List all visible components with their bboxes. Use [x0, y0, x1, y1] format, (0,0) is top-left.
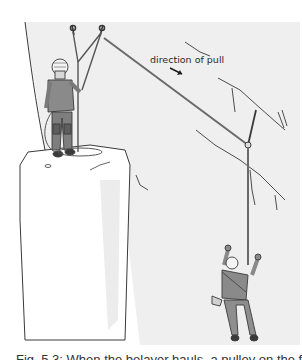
direction-label: direction of pull [150, 54, 224, 65]
redirect-pulley [245, 142, 251, 148]
climber-torso [222, 270, 248, 300]
climber-helmet [226, 257, 238, 269]
figure-caption: Fig. 5.3: When the belayer hauls, a pull… [16, 352, 302, 360]
